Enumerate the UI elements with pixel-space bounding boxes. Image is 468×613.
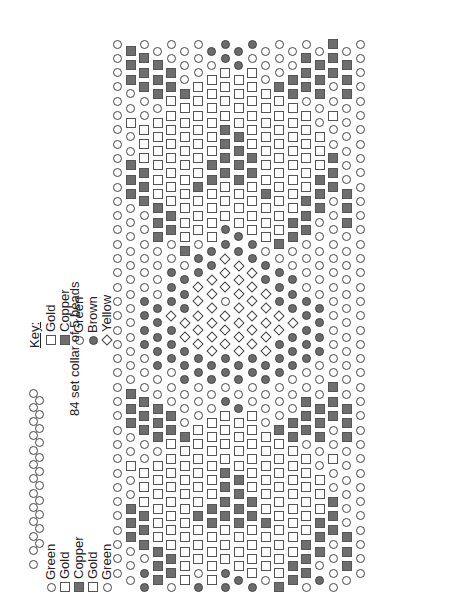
- brown-bead: [248, 583, 257, 592]
- gold-bead: [247, 211, 257, 221]
- brown-bead: [180, 361, 189, 370]
- green-bead: [315, 232, 324, 241]
- gold-bead: [301, 111, 311, 121]
- gold-bead: [220, 111, 230, 121]
- green-bead: [342, 175, 351, 184]
- green-bead: [167, 40, 176, 49]
- green-bead: [261, 418, 270, 427]
- gold-bead: [153, 518, 163, 528]
- brown-bead: [167, 354, 176, 363]
- gold-bead: [193, 96, 203, 106]
- copper-bead: [288, 218, 298, 228]
- green-bead: [194, 569, 203, 578]
- gold-bead: [193, 497, 203, 507]
- green-swatch-icon: [47, 583, 56, 592]
- copper-bead: [139, 411, 149, 421]
- copper-bead: [126, 189, 136, 199]
- copper-bead: [126, 418, 136, 428]
- copper-bead: [247, 168, 257, 178]
- gold-bead: [180, 532, 190, 542]
- gold-bead: [288, 160, 298, 170]
- copper-bead: [166, 68, 176, 78]
- gold-bead: [234, 218, 244, 228]
- brown-bead: [194, 368, 203, 377]
- green-bead: [35, 410, 44, 419]
- gold-bead: [193, 482, 203, 492]
- green-bead: [167, 397, 176, 406]
- gold-bead: [166, 168, 176, 178]
- copper-bead: [328, 39, 338, 49]
- copper-bead: [234, 146, 244, 156]
- yellow-bead: [246, 310, 257, 321]
- green-bead: [261, 247, 270, 256]
- green-bead: [329, 569, 338, 578]
- yellow-bead: [206, 303, 217, 314]
- brown-bead: [302, 354, 311, 363]
- brown-bead: [167, 326, 176, 335]
- green-bead: [342, 247, 351, 256]
- gold-bead: [234, 432, 244, 442]
- gold-bead: [261, 446, 271, 456]
- green-bead: [356, 326, 365, 335]
- green-bead: [275, 40, 284, 49]
- gold-bead: [153, 118, 163, 128]
- green-bead: [342, 161, 351, 170]
- gold-bead: [193, 111, 203, 121]
- brown-bead: [261, 375, 270, 384]
- green-bead: [126, 218, 135, 227]
- green-bead: [302, 254, 311, 263]
- green-bead: [275, 54, 284, 63]
- gold-bead: [247, 68, 257, 78]
- yellow-bead: [260, 346, 271, 357]
- brown-bead: [275, 368, 284, 377]
- gold-bead: [301, 139, 311, 149]
- copper-bead: [139, 397, 149, 407]
- green-bead: [329, 240, 338, 249]
- gold-bead: [193, 82, 203, 92]
- green-bead: [315, 47, 324, 56]
- brown-bead: [167, 297, 176, 306]
- gold-bead: [166, 182, 176, 192]
- copper-bead: [274, 82, 284, 92]
- green-bead: [342, 261, 351, 270]
- gold-bead: [288, 189, 298, 199]
- gold-bead: [288, 146, 298, 156]
- collar-seq-gold: Gold: [58, 536, 72, 592]
- copper-bead: [126, 404, 136, 414]
- yellow-bead: [273, 324, 284, 335]
- green-bead: [126, 447, 135, 456]
- gold-bead: [193, 125, 203, 135]
- gold-bead: [207, 89, 217, 99]
- copper-bead: [315, 532, 325, 542]
- yellow-bead: [233, 331, 244, 342]
- gold-bead: [180, 461, 190, 471]
- brown-bead: [261, 275, 270, 284]
- gold-bead: [315, 146, 325, 156]
- gold-bead: [153, 132, 163, 142]
- copper-bead: [247, 497, 257, 507]
- green-bead: [342, 304, 351, 313]
- green-bead: [221, 383, 230, 392]
- green-bead: [356, 168, 365, 177]
- green-bead: [342, 47, 351, 56]
- copper-bead: [328, 411, 338, 421]
- green-bead: [329, 469, 338, 478]
- green-bead: [167, 240, 176, 249]
- copper-bead: [328, 168, 338, 178]
- copper-bead: [153, 575, 163, 585]
- yellow-bead: [260, 303, 271, 314]
- gold-bead: [166, 125, 176, 135]
- copper-bead: [126, 532, 136, 542]
- green-bead: [126, 275, 135, 284]
- green-bead: [356, 454, 365, 463]
- gold-bead: [288, 547, 298, 557]
- gold-bead: [153, 532, 163, 542]
- brown-bead: [180, 304, 189, 313]
- brown-bead: [153, 318, 162, 327]
- brown-bead: [207, 361, 216, 370]
- brown-bead: [288, 290, 297, 299]
- green-bead: [329, 426, 338, 435]
- green-bead: [329, 197, 338, 206]
- gold-bead: [166, 525, 176, 535]
- gold-bead: [180, 232, 190, 242]
